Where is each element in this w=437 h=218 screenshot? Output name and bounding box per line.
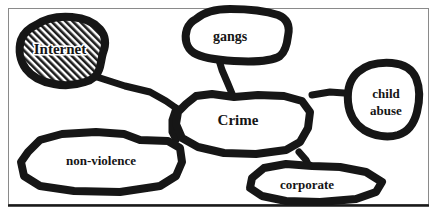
node-gangs-label: gangs — [213, 29, 248, 44]
node-child-abuse[interactable]: child abuse — [348, 63, 419, 137]
node-crime-label: Crime — [218, 112, 259, 128]
node-non-violence-label: non-violence — [66, 153, 136, 168]
node-corporate[interactable]: corporate — [250, 164, 382, 202]
node-corporate-label: corporate — [280, 177, 334, 192]
node-internet-label: Internet — [34, 41, 87, 57]
concept-map-svg: Internet Internet gangs child abuse Crim… — [0, 0, 437, 218]
node-internet[interactable]: Internet Internet — [20, 17, 105, 85]
node-non-violence[interactable]: non-violence — [21, 132, 182, 192]
node-child-abuse-label-line2: abuse — [370, 103, 402, 118]
node-child-abuse-label-line1: child — [372, 86, 400, 101]
diagram-canvas: Internet Internet gangs child abuse Crim… — [0, 0, 437, 218]
node-gangs[interactable]: gangs — [186, 9, 289, 61]
edge-crime-child-abuse[interactable] — [312, 92, 344, 95]
node-crime[interactable]: Crime — [176, 94, 310, 154]
